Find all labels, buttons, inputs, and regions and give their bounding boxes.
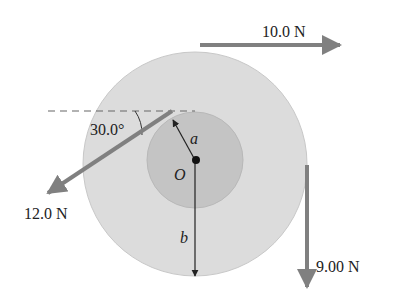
label-12N: 12.0 N (24, 205, 68, 222)
label-radius-b: b (180, 229, 188, 246)
label-9N: 9.00 N (316, 258, 360, 275)
label-center-O: O (174, 166, 186, 183)
center-point (192, 156, 200, 164)
pulley-diagram: 10.0 N 12.0 N 9.00 N 30.0° O a b (0, 0, 400, 305)
label-angle: 30.0° (90, 121, 124, 138)
label-10N: 10.0 N (262, 23, 306, 40)
label-radius-a: a (190, 130, 198, 147)
